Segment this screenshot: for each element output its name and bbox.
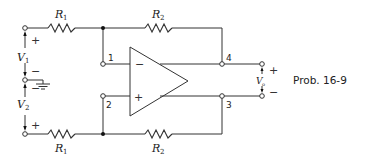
v1-arrow-up-head xyxy=(23,31,26,36)
r1-top-label: R xyxy=(54,8,63,21)
vo-plus-sign: + xyxy=(269,64,278,77)
op-amp-difference-circuit: − + + − V 1 − + V 2 R 1 R 2 R 1 R 2 1 2 … xyxy=(0,0,369,162)
problem-caption: Prob. 16-9 xyxy=(293,74,347,86)
junction-dot-top xyxy=(101,26,105,30)
node-2-label: 2 xyxy=(106,100,112,110)
v1-label-sub: 1 xyxy=(25,57,29,65)
vo-arrow-up-head xyxy=(261,67,264,71)
resistor-r1-top xyxy=(48,24,75,32)
v2-arrow-up-head xyxy=(23,83,26,88)
v2-plus-terminal xyxy=(23,132,28,137)
r2-top-label: R xyxy=(151,8,160,21)
node-4-label: 4 xyxy=(226,53,232,63)
v2-minus-sign: − xyxy=(31,82,40,95)
v2-label-sub: 2 xyxy=(25,104,29,112)
r2-bottom-label: R xyxy=(151,142,160,155)
vo-arrow-down-head xyxy=(261,89,264,93)
r2-top-label-sub: 2 xyxy=(160,14,164,22)
output-minus-terminal xyxy=(260,94,265,99)
v1-minus-sign: − xyxy=(31,65,40,78)
v1-plus-terminal xyxy=(23,26,28,31)
noninverting-sign: + xyxy=(134,91,143,104)
v2-plus-sign: + xyxy=(31,119,40,132)
node-2-terminal xyxy=(101,94,106,99)
common-terminal xyxy=(23,78,28,83)
node-3-terminal xyxy=(220,94,225,99)
r1-bottom-label-sub: 1 xyxy=(63,148,67,156)
v1-arrow-down-head xyxy=(23,72,26,77)
vo-minus-sign: − xyxy=(269,86,278,99)
v2-arrow-down-head xyxy=(23,126,26,131)
v1-plus-sign: + xyxy=(31,34,40,47)
resistor-r1-bottom xyxy=(48,130,75,138)
node-1-terminal xyxy=(101,62,106,67)
inverting-sign: − xyxy=(135,58,144,71)
junction-dot-bottom xyxy=(101,132,105,136)
node-3-label: 3 xyxy=(226,100,232,110)
node-1-label: 1 xyxy=(108,53,114,63)
resistor-r2-top xyxy=(145,24,172,32)
node-4-terminal xyxy=(220,62,225,67)
r1-top-label-sub: 1 xyxy=(63,14,67,22)
resistor-r2-bottom xyxy=(145,130,172,138)
r2-bottom-label-sub: 2 xyxy=(160,148,164,156)
r1-bottom-label: R xyxy=(54,142,63,155)
vo-label-sub: o xyxy=(262,81,265,87)
output-plus-terminal xyxy=(260,62,265,67)
